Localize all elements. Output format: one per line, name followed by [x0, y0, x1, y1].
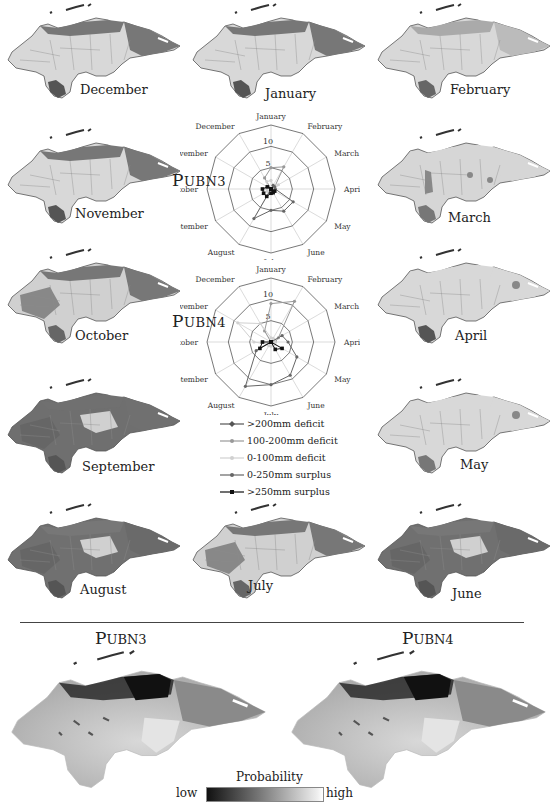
svg-text:December: December [195, 122, 234, 131]
svg-text:March: March [334, 149, 359, 158]
legend-marker-icon [220, 453, 244, 463]
month-label-october: October [75, 328, 128, 343]
probability-colorbar: Probability low high [200, 770, 370, 810]
legend-item: >200mm deficit [220, 415, 370, 432]
section-divider [20, 622, 524, 623]
svg-text:10: 10 [263, 137, 273, 146]
svg-text:January: January [255, 112, 286, 121]
svg-text:April: April [343, 185, 360, 194]
colorbar-title: Probability [236, 770, 303, 784]
radar-title-pubn4: PUBN4 [172, 311, 226, 331]
month-label-july: July [248, 578, 273, 593]
colorbar-low-label: low [176, 786, 197, 800]
colorbar-high-label: high [326, 786, 353, 800]
month-label-january: January [265, 86, 316, 101]
svg-text:August: August [207, 401, 235, 410]
month-label-may: May [460, 457, 488, 472]
legend-label: 0-250mm surplus [247, 469, 331, 480]
legend-label: 100-200mm deficit [247, 435, 338, 446]
svg-text:June: June [307, 401, 326, 410]
colorbar-gradient [206, 787, 324, 802]
legend-marker-icon [220, 419, 244, 429]
month-label-august: August [80, 582, 126, 597]
svg-text:May: May [334, 222, 351, 231]
svg-text:May: May [334, 375, 351, 384]
legend-marker-icon [220, 436, 244, 446]
month-label-march: March [448, 210, 491, 225]
legend-item: >250mm surplus [220, 483, 370, 500]
month-label-june: June [452, 586, 482, 601]
radar-title-pubn3: PUBN3PUBN3 [172, 170, 226, 190]
legend-item: 0-100mm deficit [220, 449, 370, 466]
svg-text:November: November [180, 149, 208, 158]
svg-text:September: September [180, 222, 208, 231]
month-label-december: December [80, 82, 148, 97]
radar-chart-pubn4: 510JanuaryFebruaryMarchAprilMayJuneJulyA… [180, 255, 360, 415]
legend-marker-icon [220, 470, 244, 480]
legend-item: 0-250mm surplus [220, 466, 370, 483]
svg-text:March: March [334, 302, 359, 311]
svg-text:December: December [195, 275, 234, 284]
svg-text:October: October [180, 338, 198, 347]
svg-text:February: February [308, 275, 344, 284]
map-july [185, 500, 375, 610]
month-label-september: September [82, 459, 154, 474]
month-label-november: November [75, 206, 144, 221]
svg-text:February: February [308, 122, 344, 131]
svg-text:January: January [255, 265, 286, 274]
legend-label: >200mm deficit [247, 418, 324, 429]
svg-text:5: 5 [265, 159, 270, 168]
svg-text:November: November [180, 302, 208, 311]
radar-legend: >200mm deficit100-200mm deficit0-100mm d… [220, 415, 370, 500]
month-label-april: April [455, 328, 487, 343]
legend-item: 100-200mm deficit [220, 432, 370, 449]
legend-marker-icon [220, 487, 244, 497]
month-label-february: February [450, 82, 510, 97]
svg-text:September: September [180, 375, 208, 384]
svg-text:April: April [343, 338, 360, 347]
legend-label: 0-100mm deficit [247, 452, 326, 463]
legend-label: >250mm surplus [247, 486, 330, 497]
svg-text:10: 10 [263, 290, 273, 299]
